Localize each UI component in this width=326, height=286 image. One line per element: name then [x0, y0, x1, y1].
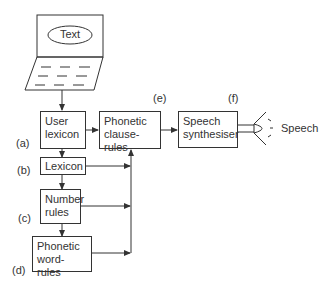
output-speech-label: Speech	[281, 122, 318, 134]
node-label-line1: Speech	[183, 115, 233, 128]
node-phonetic-clause-rules: Phonetic clause-rules	[99, 111, 161, 149]
speaker-icon	[238, 112, 273, 145]
tag-f: (f)	[228, 92, 238, 104]
tag-b: (b)	[17, 164, 30, 176]
tag-a: (a)	[16, 137, 29, 149]
node-label-line1: Lexicon	[45, 160, 81, 173]
node-label-line2: rules	[45, 206, 76, 219]
node-lexicon: Lexicon	[40, 157, 86, 175]
node-label-line2: clause-rules	[104, 128, 156, 154]
node-number-rules: Number rules	[40, 189, 81, 224]
tag-c: (c)	[18, 212, 31, 224]
node-label-line2: word-rules	[37, 253, 87, 279]
node-label-line2: synthesiser	[183, 128, 233, 141]
node-label-line1: Phonetic	[37, 240, 87, 253]
node-label-line2: lexicon	[45, 128, 81, 141]
node-label-line1: User	[45, 115, 81, 128]
node-phonetic-word-rules: Phonetic word-rules	[32, 236, 92, 272]
node-label-line1: Phonetic	[104, 115, 156, 128]
tag-e: (e)	[153, 92, 166, 104]
node-speech-synthesiser: Speech synthesiser	[178, 111, 238, 148]
node-label-line1: Number	[45, 193, 76, 206]
tag-d: (d)	[12, 264, 25, 276]
node-user-lexicon: User lexicon	[40, 111, 86, 149]
text-oval-label: Text	[48, 28, 92, 40]
